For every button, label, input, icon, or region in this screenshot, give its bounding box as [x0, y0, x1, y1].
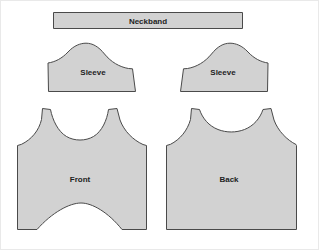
- piece-neckband[interactable]: Neckband: [54, 13, 243, 29]
- piece-sleeve-right[interactable]: Sleeve: [181, 43, 269, 91]
- piece-bodice-front[interactable]: Front: [18, 109, 147, 230]
- sleeve-left-label: Sleeve: [80, 68, 106, 77]
- neckband-label: Neckband: [129, 17, 167, 26]
- sleeve-right-label: Sleeve: [210, 68, 236, 77]
- bodice-back-shape: [167, 109, 297, 230]
- pattern-sheet: Neckband Sleeve Sleeve Front Back: [0, 0, 319, 250]
- bodice-front-label: Front: [70, 175, 91, 184]
- pattern-diagram: Neckband Sleeve Sleeve Front Back: [0, 0, 319, 250]
- piece-sleeve-left[interactable]: Sleeve: [48, 43, 136, 91]
- bodice-front-shape: [18, 109, 147, 230]
- bodice-back-label: Back: [219, 175, 239, 184]
- piece-bodice-back[interactable]: Back: [167, 109, 297, 230]
